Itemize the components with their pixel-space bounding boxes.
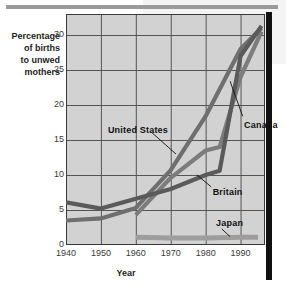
y-tick-label-15: 15	[44, 135, 64, 144]
x-axis-title: Year	[0, 268, 252, 278]
series-label-britain: Britain	[213, 187, 243, 197]
y-tick-label-30: 30	[44, 30, 64, 39]
x-tick-label-1940: 1940	[49, 248, 83, 258]
x-tick-label-1990: 1990	[224, 248, 258, 258]
series-label-canada: Canada	[244, 120, 278, 130]
chart-figure: Percentage of births to unwed mothers 05…	[0, 0, 286, 288]
x-tick-label-1970: 1970	[154, 248, 188, 258]
right-accent-bar	[266, 12, 272, 280]
y-tick-label-10: 10	[44, 170, 64, 179]
x-tick-label-1980: 1980	[189, 248, 223, 258]
x-tick-label-1950: 1950	[84, 248, 118, 258]
y-tick-label-25: 25	[44, 65, 64, 74]
series-label-united-states: United States	[108, 125, 168, 135]
plot-area: United States Canada Britain Japan	[66, 14, 265, 245]
y-tick-label-5: 5	[44, 205, 64, 214]
series-label-japan: Japan	[216, 218, 243, 228]
x-axis-tick-labels: 194019501960197019801990	[0, 248, 286, 262]
x-tick-label-1960: 1960	[119, 248, 153, 258]
y-axis-tick-labels: 051015202530	[40, 0, 64, 288]
y-tick-label-20: 20	[44, 100, 64, 109]
